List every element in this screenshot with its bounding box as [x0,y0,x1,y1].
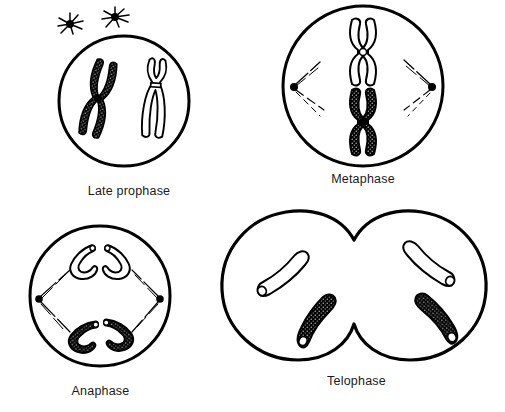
stage-label-late-prophase: Late prophase [44,184,214,198]
centriole-right-anaphase [156,295,164,303]
telophase-illustration [214,206,499,372]
centromere-outline-top-right-anaphase [105,245,111,251]
centriole-right-metaphase [428,83,436,91]
centrosome-dot-right-icon [111,13,119,21]
centrosome-aster-right-icon [102,7,129,27]
centromere-dark-bottom-right-anaphase [103,320,109,326]
centromere-outline-late-prophase [151,83,161,88]
stage-label-metaphase: Metaphase [258,172,468,186]
stage-panel-anaphase: Anaphase [8,208,193,408]
mitosis-diagram: Late prophase [0,0,505,412]
cell-membrane-anaphase [30,226,170,366]
cell-membrane-metaphase [283,6,443,166]
late-prophase-illustration [44,6,214,182]
centromere-dark-bottom-left-anaphase [93,322,99,328]
centrosome-aster-left-icon [58,13,83,34]
stage-panel-metaphase: Metaphase [258,0,468,200]
centriole-left-metaphase [290,83,298,91]
centriole-left-anaphase [35,295,43,303]
centromere-outline-metaphase [359,48,366,55]
stage-panel-telophase: Telophase [214,206,499,406]
stage-label-anaphase: Anaphase [8,384,193,398]
centrosome-dot-left-icon [66,20,74,28]
centromere-outline-top-left-anaphase [90,245,96,251]
metaphase-illustration [258,0,468,172]
stage-label-telophase: Telophase [214,374,499,388]
centromere-dark-metaphase [359,118,366,125]
stage-panel-late-prophase: Late prophase [44,6,214,202]
cell-membrane-late-prophase [59,36,189,166]
anaphase-illustration [8,208,193,380]
